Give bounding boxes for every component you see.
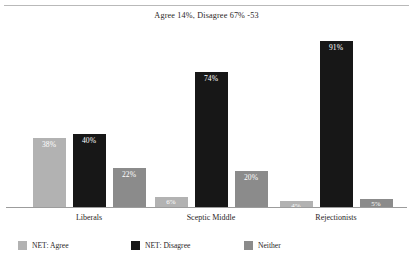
bar-liberals-neither[interactable]: 22% bbox=[113, 168, 146, 208]
plot-area: 38% 40% 22% 6% 74% 20% 4% bbox=[0, 24, 413, 208]
bar-value-label: 22% bbox=[113, 170, 146, 179]
legend-item-neither[interactable]: Neither bbox=[244, 241, 281, 250]
bar-value-label: 91% bbox=[320, 43, 353, 52]
category-label-liberals: Liberals bbox=[28, 213, 150, 222]
bar-group-rejectionists: 4% 91% 5% bbox=[272, 24, 400, 208]
bar-sceptic-middle-neither[interactable]: 20% bbox=[235, 171, 268, 208]
category-axis-labels: Liberals Sceptic Middle Rejectionists bbox=[0, 213, 413, 229]
axis-baseline bbox=[6, 207, 407, 208]
bar-value-label: 38% bbox=[33, 140, 66, 149]
bar-liberals-net-disagree[interactable]: 40% bbox=[73, 134, 106, 208]
bar-group-sceptic-middle: 6% 74% 20% bbox=[150, 24, 272, 208]
legend-item-net-disagree[interactable]: NET: Disagree bbox=[131, 241, 190, 250]
legend-item-net-agree[interactable]: NET: Agree bbox=[18, 241, 69, 250]
bar-value-label: 40% bbox=[73, 136, 106, 145]
category-label-sceptic-middle: Sceptic Middle bbox=[150, 213, 272, 222]
bar-liberals-net-agree[interactable]: 38% bbox=[33, 138, 66, 208]
bar-value-label: 74% bbox=[195, 74, 228, 83]
bar-value-label: 6% bbox=[155, 198, 188, 207]
legend-swatch-icon bbox=[244, 241, 253, 250]
legend-label: NET: Agree bbox=[32, 241, 69, 250]
bar-value-label: 20% bbox=[235, 173, 268, 182]
bar-group-liberals: 38% 40% 22% bbox=[28, 24, 150, 208]
legend-swatch-icon bbox=[18, 241, 27, 250]
legend-label: NET: Disagree bbox=[145, 241, 190, 250]
chart-title: Agree 14%, Disagree 67% -53 bbox=[0, 11, 413, 20]
top-divider bbox=[4, 5, 409, 6]
bar-rejectionists-net-disagree[interactable]: 91% bbox=[320, 41, 353, 208]
chart-legend: NET: Agree NET: Disagree Neither bbox=[18, 241, 398, 255]
legend-swatch-icon bbox=[131, 241, 140, 250]
category-label-rejectionists: Rejectionists bbox=[272, 213, 400, 222]
legend-label: Neither bbox=[258, 241, 281, 250]
bar-chart: Agree 14%, Disagree 67% -53 38% 40% 22% … bbox=[0, 0, 413, 271]
bar-sceptic-middle-net-disagree[interactable]: 74% bbox=[195, 72, 228, 208]
